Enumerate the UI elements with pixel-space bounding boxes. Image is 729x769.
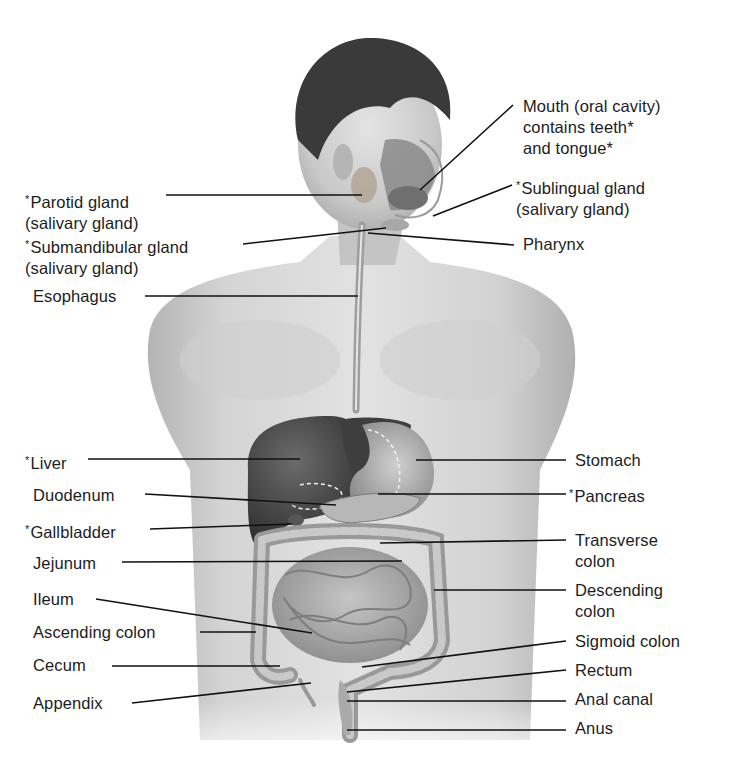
label-line: Rectum (575, 660, 632, 681)
small-intestine (272, 547, 428, 663)
accessory-organ-marker: * (25, 238, 29, 250)
label-line: *Sublingual gland (516, 175, 645, 199)
label-text: Liver (30, 454, 66, 472)
label-pharynx: Pharynx (523, 234, 584, 255)
label-line: Duodenum (33, 485, 115, 506)
label-line: Descending (575, 580, 663, 601)
label-pancreas: *Pancreas (569, 483, 645, 507)
label-line: Esophagus (33, 286, 116, 307)
label-line: Transverse (575, 530, 658, 551)
accessory-organ-marker: * (25, 454, 29, 466)
leader-line-sublingual-gland (433, 185, 512, 216)
label-line: colon (575, 551, 658, 572)
label-line: Jejunum (33, 553, 96, 574)
leader-line-jejunum (122, 561, 402, 562)
label-ascending-colon: Ascending colon (33, 622, 156, 643)
label-line: *Submandibular gland (25, 234, 188, 258)
label-line: colon (575, 601, 663, 622)
label-mouth: Mouth (oral cavity)contains teeth*and to… (523, 96, 661, 159)
label-anus: Anus (575, 718, 613, 739)
label-appendix: Appendix (33, 693, 103, 714)
accessory-organ-marker: * (25, 523, 29, 535)
label-line: *Parotid gland (25, 189, 138, 213)
label-line: (salivary gland) (516, 199, 645, 220)
label-line: Ileum (33, 589, 74, 610)
label-parotid-gland: *Parotid gland(salivary gland) (25, 189, 138, 234)
label-line: *Pancreas (569, 483, 645, 507)
label-sublingual-gland: *Sublingual gland(salivary gland) (516, 175, 645, 220)
label-esophagus: Esophagus (33, 286, 116, 307)
label-text: Parotid gland (30, 193, 129, 211)
label-line: Stomach (575, 450, 641, 471)
label-line: *Liver (25, 450, 67, 474)
label-ileum: Ileum (33, 589, 74, 610)
label-text: Pancreas (574, 487, 645, 505)
label-sigmoid-colon: Sigmoid colon (575, 631, 680, 652)
label-line: Anal canal (575, 689, 653, 710)
label-line: (salivary gland) (25, 213, 138, 234)
label-text: Gallbladder (30, 523, 116, 541)
label-text: Submandibular gland (30, 238, 188, 256)
label-duodenum: Duodenum (33, 485, 115, 506)
label-descending-colon: Descendingcolon (575, 580, 663, 622)
label-cecum: Cecum (33, 655, 86, 676)
label-line: Ascending colon (33, 622, 156, 643)
label-line: Anus (575, 718, 613, 739)
label-line: and tongue* (523, 138, 661, 159)
label-line: (salivary gland) (25, 258, 188, 279)
label-line: Mouth (oral cavity) (523, 96, 661, 117)
label-rectum: Rectum (575, 660, 632, 681)
label-anal-canal: Anal canal (575, 689, 653, 710)
label-liver: *Liver (25, 450, 67, 474)
label-line: Sigmoid colon (575, 631, 680, 652)
label-line: Appendix (33, 693, 103, 714)
label-transverse-colon: Transversecolon (575, 530, 658, 572)
accessory-organ-marker: * (569, 487, 573, 499)
accessory-organ-marker: * (25, 193, 29, 205)
label-line: *Gallbladder (25, 519, 116, 543)
accessory-organ-marker: * (516, 179, 520, 191)
label-text: Sublingual gland (521, 179, 645, 197)
label-line: contains teeth* (523, 117, 661, 138)
label-line: Cecum (33, 655, 86, 676)
label-stomach: Stomach (575, 450, 641, 471)
label-line: Pharynx (523, 234, 584, 255)
label-submandibular-gland: *Submandibular gland(salivary gland) (25, 234, 188, 279)
label-gallbladder: *Gallbladder (25, 519, 116, 543)
label-jejunum: Jejunum (33, 553, 96, 574)
